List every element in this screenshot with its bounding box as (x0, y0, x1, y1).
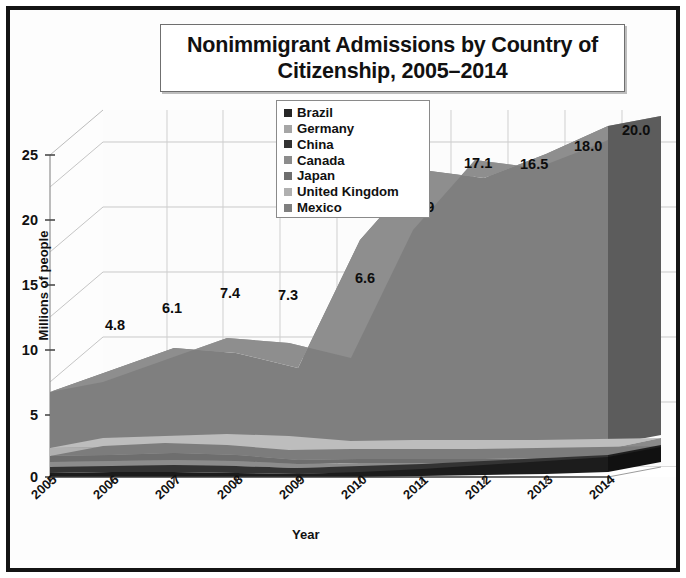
legend-label: Germany (297, 122, 354, 135)
legend-item-brazil[interactable]: Brazil (284, 105, 429, 121)
chart-title: Nonimmigrant Admissions by Country of Ci… (160, 24, 625, 92)
legend-label: Brazil (297, 106, 333, 119)
legend-swatch-icon (284, 125, 292, 133)
x-axis-label: Year (292, 527, 319, 542)
data-label: 7.3 (278, 287, 298, 303)
legend-label: Mexico (297, 201, 342, 214)
data-label: 20.0 (622, 122, 650, 138)
legend-swatch-icon (284, 156, 292, 164)
y-tick-20: 20 (4, 212, 38, 228)
chart-title-line-1: Nonimmigrant Admissions by Country of (187, 32, 598, 58)
legend-swatch-icon (284, 109, 292, 117)
data-label: 6.6 (355, 270, 375, 286)
data-label: 18.0 (574, 138, 602, 154)
data-label: 17.1 (464, 155, 492, 171)
legend-label: Japan (297, 169, 335, 182)
legend-label: Canada (297, 154, 345, 167)
legend-item-germany[interactable]: Germany (284, 121, 429, 137)
chart-legend: Brazil Germany China Canada Japan United… (276, 100, 430, 218)
data-label: 6.1 (162, 300, 182, 316)
legend-item-japan[interactable]: Japan (284, 168, 429, 184)
y-tick-15: 15 (4, 277, 38, 293)
legend-swatch-icon (284, 204, 292, 212)
legend-item-united-kingdom[interactable]: United Kingdom (284, 184, 429, 200)
data-label: 16.5 (520, 156, 548, 172)
y-tick-25: 25 (4, 147, 38, 163)
legend-label: China (297, 138, 334, 151)
data-label: 7.4 (220, 285, 240, 301)
y-tick-5: 5 (4, 407, 38, 423)
legend-item-canada[interactable]: Canada (284, 152, 429, 168)
chart-title-line-2: Citizenship, 2005–2014 (278, 58, 508, 84)
data-label: 4.8 (105, 317, 125, 333)
legend-swatch-icon (284, 140, 292, 148)
legend-swatch-icon (284, 172, 292, 180)
y-tick-0: 0 (4, 469, 38, 485)
legend-swatch-icon (284, 188, 292, 196)
y-axis-label: Millions of people (36, 226, 51, 346)
chart-frame: 25 20 15 10 5 0 Millions of people 2005 … (6, 6, 680, 572)
legend-item-mexico[interactable]: Mexico (284, 200, 429, 216)
y-tick-10: 10 (4, 342, 38, 358)
legend-label: United Kingdom (297, 185, 399, 198)
legend-item-china[interactable]: China (284, 137, 429, 153)
